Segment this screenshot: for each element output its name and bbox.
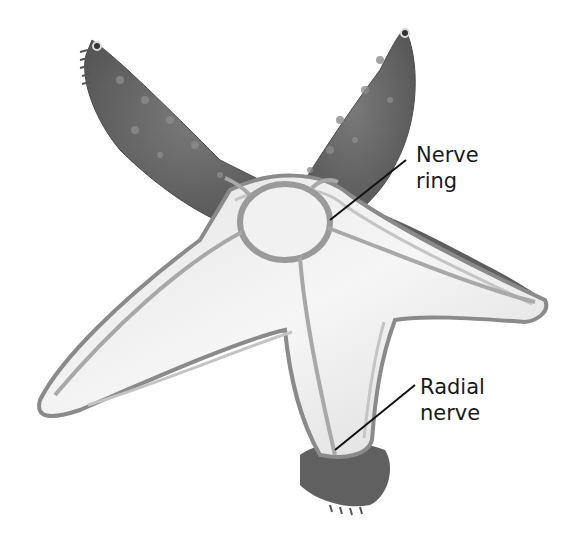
nerve-ring-label: Nerve ring: [416, 142, 479, 194]
eyespot-left: [93, 42, 101, 50]
radial-nerve-label-line2: nerve: [420, 400, 485, 426]
radial-nerve-label-line1: Radial: [420, 374, 485, 400]
starfish-illustration: [0, 0, 571, 533]
nerve-ring-label-line2: ring: [416, 168, 479, 194]
starfish-diagram: Nerve ring Radial nerve: [0, 0, 571, 533]
eyespot-right: [401, 29, 409, 37]
nerve-ring-label-line1: Nerve: [416, 142, 479, 168]
radial-nerve-label: Radial nerve: [420, 374, 485, 426]
nerve-ring: [240, 184, 330, 260]
